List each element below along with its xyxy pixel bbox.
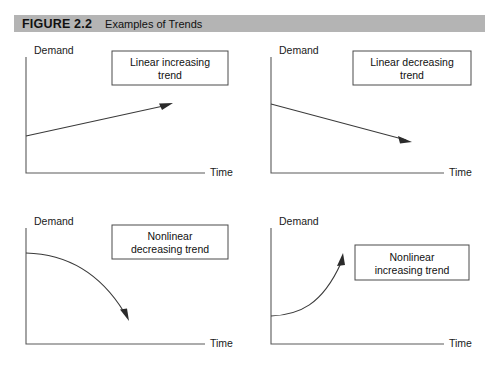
callout-line-2: trend xyxy=(400,69,424,81)
trend-line xyxy=(271,263,341,316)
callout-line-1: Linear decreasing xyxy=(370,56,454,68)
trend-arrowhead xyxy=(398,136,412,144)
callout-line-2: decreasing trend xyxy=(131,243,209,255)
callout-line-2: increasing trend xyxy=(375,264,450,276)
figure-number: FIGURE 2.2 xyxy=(22,17,92,31)
y-axis-label: Demand xyxy=(34,44,74,56)
y-axis-label: Demand xyxy=(279,44,319,56)
trend-arrowhead xyxy=(337,253,345,266)
chart-linear-decreasing: Demand Time Linear decreasing trend xyxy=(259,44,487,189)
x-axis-label: Time xyxy=(449,337,472,349)
chart-linear-increasing: Demand Time Linear increasing trend xyxy=(14,44,242,189)
x-axis-label: Time xyxy=(210,337,233,349)
x-axis-label: Time xyxy=(210,166,233,178)
y-axis-label: Demand xyxy=(34,215,74,227)
callout-line-1: Linear increasing xyxy=(130,56,210,68)
trend-arrowhead xyxy=(120,309,129,322)
chart-nonlinear-decreasing: Demand Time Nonlinear decreasing trend xyxy=(14,215,242,360)
callout-line-2: trend xyxy=(158,69,182,81)
chart-nonlinear-increasing: Demand Time Nonlinear increasing trend xyxy=(259,215,487,360)
figure-caption-bar: FIGURE 2.2 Examples of Trends xyxy=(14,15,485,32)
callout-line-1: Nonlinear xyxy=(390,251,435,263)
y-axis-label: Demand xyxy=(279,215,319,227)
trend-line xyxy=(26,105,168,136)
callout-line-1: Nonlinear xyxy=(148,230,193,242)
figure-title: Examples of Trends xyxy=(105,18,202,30)
trend-arrowhead xyxy=(159,103,173,110)
trend-line xyxy=(26,253,124,312)
trend-line xyxy=(271,104,406,140)
x-axis-label: Time xyxy=(449,166,472,178)
